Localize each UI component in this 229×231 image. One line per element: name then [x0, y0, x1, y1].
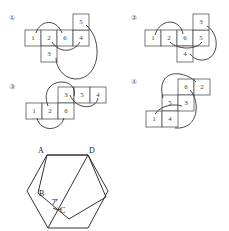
net-3-num: 4 [96, 91, 100, 99]
net-2-num: 6 [183, 34, 187, 42]
net-2-label: ② [131, 14, 137, 22]
net-2-num: 2 [167, 34, 171, 42]
geometry-figure: A D B C ア [27, 146, 108, 228]
net-3-label: ③ [9, 83, 15, 91]
net-3-num: 2 [48, 107, 52, 115]
net-3-num: 5 [80, 91, 84, 99]
net-4-num: 2 [200, 83, 204, 91]
net-1-num: 3 [47, 50, 51, 58]
net-3-num: 3 [64, 91, 68, 99]
net-1-num: 5 [79, 18, 83, 26]
net-2-num: 5 [199, 34, 203, 42]
net-4-num: 6 [184, 83, 188, 91]
net-1-num: 2 [47, 34, 51, 42]
figure-canvas: ① 1 2 6 4 5 3 ② 1 2 6 5 3 4 ③ [0, 0, 229, 231]
net-2-num: 1 [151, 34, 155, 42]
line-d-to-hexagon-vertex [48, 155, 88, 228]
net-3: ③ 3 5 4 1 2 6 [9, 82, 106, 129]
net-2: ② 1 2 6 5 3 4 [131, 14, 216, 62]
point-b-label: B [39, 189, 44, 198]
net-1-num: 4 [79, 34, 83, 42]
net-3-num: 6 [64, 107, 68, 115]
net-1-num: 1 [31, 34, 35, 42]
net-1-num: 6 [63, 34, 67, 42]
net-3-arc [37, 118, 64, 129]
net-3-num: 1 [32, 107, 36, 115]
net-4-num: 3 [184, 99, 188, 107]
net-4: ④ 6 2 5 3 1 4 [131, 74, 210, 128]
net-1-label: ① [9, 14, 15, 22]
point-c-label: C [60, 206, 65, 215]
angle-label: ア [51, 198, 58, 206]
point-d-label: D [89, 146, 95, 155]
net-2-num: 3 [199, 18, 203, 26]
net-1: ① 1 2 6 4 5 3 [9, 14, 97, 79]
point-a-label: A [38, 146, 44, 155]
net-4-num: 4 [168, 115, 172, 123]
pentagon [38, 155, 106, 219]
net-4-label: ④ [131, 78, 137, 86]
net-2-num: 4 [183, 50, 187, 58]
net-4-num: 1 [152, 115, 156, 123]
